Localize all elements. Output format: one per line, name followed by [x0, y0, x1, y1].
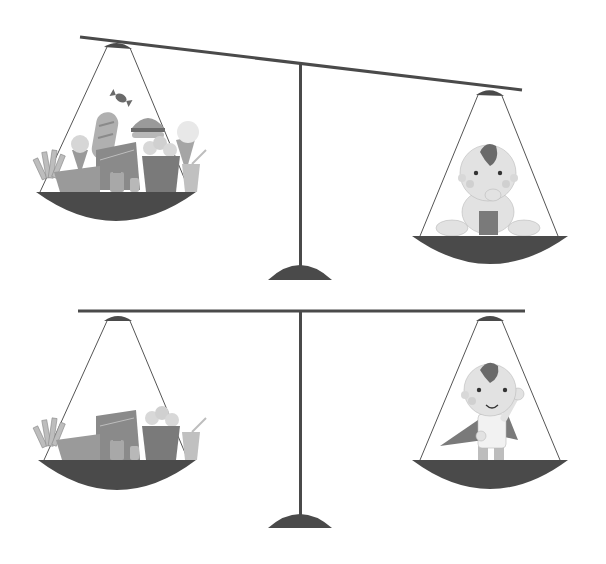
bottom-scale-pole — [299, 311, 302, 518]
top-scale-pole — [299, 63, 302, 269]
balance-illustration: Two balance scales comparing a pile of j… — [0, 0, 606, 564]
